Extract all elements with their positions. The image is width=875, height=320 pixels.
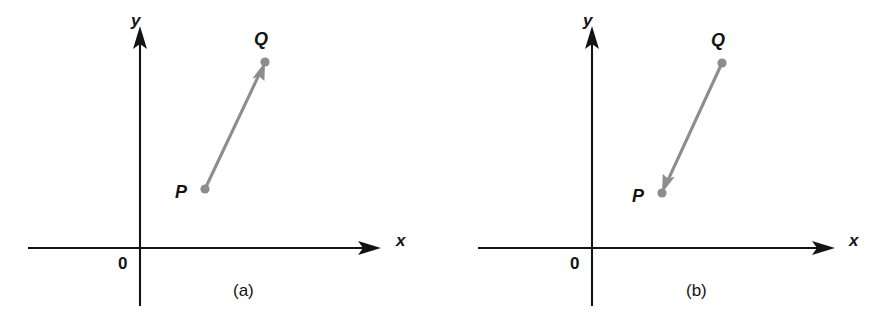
- point-label-p-a: P: [175, 183, 187, 201]
- panel-a: y x 0 P Q (a): [0, 0, 437, 320]
- panel-b-canvas: [437, 0, 875, 320]
- panel-caption-b: (b): [686, 282, 707, 299]
- vector-segment-a: [205, 73, 260, 189]
- point-label-p-b: P: [632, 187, 644, 205]
- panel-b: y x 0 P Q (b): [437, 0, 875, 320]
- y-axis-label-b: y: [583, 12, 592, 29]
- point-dot-p-b: [657, 188, 666, 197]
- point-dot-q-b: [717, 58, 726, 67]
- point-label-q-b: Q: [711, 31, 725, 49]
- point-label-q-a: Q: [254, 30, 268, 48]
- point-dot-q-a: [260, 57, 269, 66]
- vector-segment-b: [667, 63, 722, 181]
- vector-figure: y x 0 P Q (a) y x 0 P Q (b): [0, 0, 875, 320]
- y-axis-label-a: y: [131, 12, 140, 29]
- origin-label-b: 0: [570, 255, 579, 272]
- x-axis-label-b: x: [849, 232, 858, 249]
- point-dot-p-a: [200, 184, 209, 193]
- origin-label-a: 0: [118, 255, 127, 272]
- x-axis-label-a: x: [396, 232, 405, 249]
- panel-a-canvas: [0, 0, 437, 320]
- panel-caption-a: (a): [233, 282, 254, 299]
